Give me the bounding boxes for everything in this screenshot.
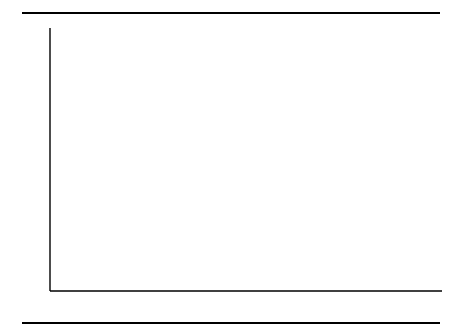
plot-area bbox=[0, 0, 460, 335]
axes bbox=[50, 28, 442, 291]
chart-figure bbox=[0, 0, 460, 335]
